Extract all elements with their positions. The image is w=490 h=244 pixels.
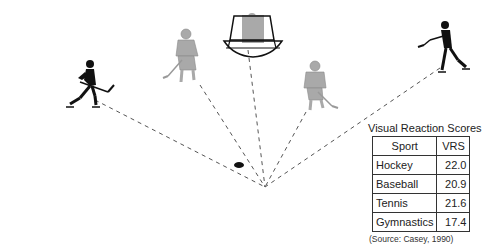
cell-sport: Baseball [373,175,437,194]
cell-vrs: 22.0 [437,156,470,175]
skater-left-center-icon [163,29,198,82]
cell-sport: Hockey [373,156,437,175]
cell-sport: Gymnastics [373,213,437,232]
skater-right-icon [418,21,470,72]
source-citation: (Source: Casey, 1990) [369,234,490,244]
puck-icon [234,162,244,168]
cell-vrs: 17.4 [437,213,470,232]
vrs-table-panel: Visual Reaction Scores Sport VRS Hockey … [368,122,490,244]
sight-line-goal [248,50,265,187]
vrs-table: Sport VRS Hockey 22.0 Baseball 20.9 Tenn… [372,136,470,232]
table-header-row: Sport VRS [373,137,470,156]
table-title: Visual Reaction Scores [368,122,490,135]
table-row: Hockey 22.0 [373,156,470,175]
table-row: Tennis 21.6 [373,194,470,213]
cell-sport: Tennis [373,194,437,213]
table-row: Gymnastics 17.4 [373,213,470,232]
skater-left-icon [66,60,114,107]
skater-right-center-icon [304,61,338,110]
sight-line-left [95,100,265,187]
cell-vrs: 21.6 [437,194,470,213]
goal-net-icon [224,13,282,57]
sight-line-left-center [200,85,265,187]
header-vrs: VRS [437,137,470,156]
cell-vrs: 20.9 [437,175,470,194]
table-row: Baseball 20.9 [373,175,470,194]
header-sport: Sport [373,137,437,156]
sight-line-right-center [265,112,306,187]
